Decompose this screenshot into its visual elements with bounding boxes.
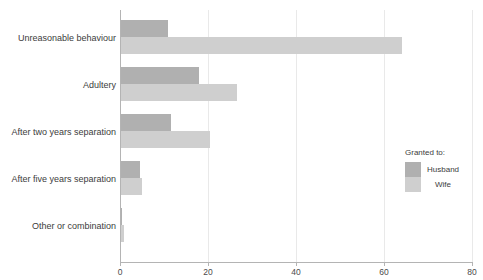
x-tick-label-40: 40 (291, 267, 300, 277)
bar-wife-unreasonable-behaviour (120, 37, 402, 54)
bar-husband-after-five-years-separation (120, 161, 140, 178)
plot-area (120, 10, 472, 262)
legend-label-wife: Wife (435, 180, 451, 189)
legend-swatch-wife (405, 177, 421, 192)
category-label-after-two-years-separation: After two years separation (0, 127, 116, 137)
bar-husband-after-two-years-separation (120, 114, 171, 131)
legend-swatch-husband (405, 162, 421, 177)
bar-wife-after-five-years-separation (120, 178, 142, 195)
bar-group-after-two-years-separation (120, 114, 472, 148)
legend-item-husband: Husband (405, 162, 445, 177)
legend: Granted to: Husband Wife (405, 148, 445, 192)
bar-chart: Unreasonable behaviour Adultery After tw… (0, 0, 483, 280)
x-tick-mark-40 (296, 262, 297, 266)
bar-group-adultery (120, 67, 472, 101)
x-tick-mark-0 (120, 262, 121, 266)
bar-group-other-or-combination (120, 208, 472, 242)
y-axis-line (120, 10, 121, 262)
category-label-adultery: Adultery (0, 80, 116, 90)
category-label-after-five-years-separation: After five years separation (0, 174, 116, 184)
bar-group-unreasonable-behaviour (120, 20, 472, 54)
gridline-80 (472, 10, 473, 262)
bar-husband-unreasonable-behaviour (120, 20, 168, 37)
legend-label-husband: Husband (427, 165, 459, 174)
x-tick-mark-60 (384, 262, 385, 266)
category-label-other-or-combination: Other or combination (0, 221, 116, 231)
legend-title: Granted to: (405, 148, 445, 157)
x-tick-label-80: 80 (467, 267, 476, 277)
x-tick-label-0: 0 (118, 267, 123, 277)
x-tick-mark-80 (472, 262, 473, 266)
x-tick-mark-20 (208, 262, 209, 266)
bar-wife-adultery (120, 84, 237, 101)
bar-wife-after-two-years-separation (120, 131, 210, 148)
x-tick-label-20: 20 (203, 267, 212, 277)
x-tick-label-60: 60 (379, 267, 388, 277)
category-label-unreasonable-behaviour: Unreasonable behaviour (0, 33, 116, 43)
bar-husband-adultery (120, 67, 199, 84)
legend-item-wife: Wife (405, 177, 445, 192)
